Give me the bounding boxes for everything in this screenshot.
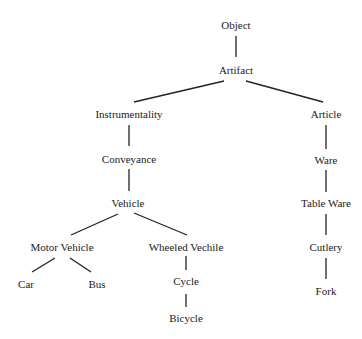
node-ware: Ware [315, 155, 338, 166]
node-conveyance: Conveyance [102, 154, 156, 165]
edge-vehicle-to-motor_vehicle [71, 214, 118, 235]
edge-artifact-to-article [246, 81, 323, 102]
taxonomy-tree-diagram: Object Artifact Instrumentality Article … [0, 0, 362, 339]
node-wheeled-vechile: Wheeled Vechile [149, 242, 224, 253]
edge-artifact-to-instrumentality [134, 81, 224, 102]
node-article: Article [311, 109, 342, 120]
edge-vehicle-to-wheeled_vechile [134, 213, 187, 235]
node-bus: Bus [88, 279, 105, 290]
node-object: Object [221, 20, 250, 31]
node-motor-vehicle: Motor Vehicle [30, 242, 93, 253]
node-fork: Fork [316, 286, 337, 297]
tree-edges [0, 0, 362, 339]
edge-motor_vehicle-to-car [32, 258, 55, 272]
node-artifact: Artifact [219, 65, 253, 76]
node-car: Car [18, 279, 34, 290]
node-instrumentality: Instrumentality [95, 109, 162, 120]
node-cycle: Cycle [173, 276, 199, 287]
node-cutlery: Cutlery [310, 242, 343, 253]
node-bicycle: Bicycle [169, 313, 203, 324]
edge-motor_vehicle-to-bus [70, 258, 91, 272]
node-vehicle: Vehicle [112, 198, 145, 209]
node-table-ware: Table Ware [301, 198, 351, 209]
